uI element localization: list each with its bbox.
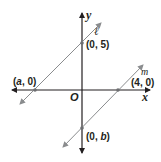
point-0-b — [80, 126, 84, 130]
point-4-0 — [116, 88, 120, 92]
line-m-label: m — [141, 66, 148, 77]
point-label-0-b: (0, b) — [86, 131, 110, 142]
point-a-0 — [33, 88, 37, 92]
coordinate-plane-diagram: y x O ℓ m (a, 0) (0, 5) (4, 0) (0, b) — [0, 0, 161, 162]
line-l — [20, 23, 101, 104]
line-l-label: ℓ — [94, 25, 99, 37]
origin-label: O — [70, 91, 79, 103]
point-label-4-0: (4, 0) — [131, 77, 154, 88]
x-axis-label: x — [141, 90, 148, 104]
point-label-0-5: (0, 5) — [86, 39, 109, 50]
point-label-a-0: (a, 0) — [13, 76, 36, 87]
y-axis-label: y — [84, 8, 92, 22]
point-0-5 — [80, 41, 84, 45]
